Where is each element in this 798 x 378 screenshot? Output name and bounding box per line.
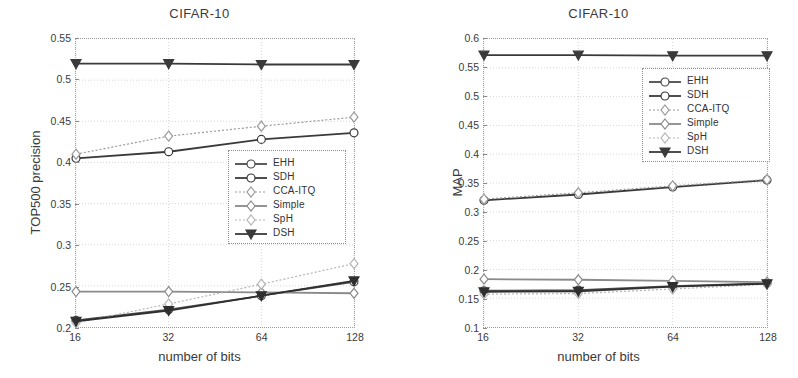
y-tick-label: 0.55 (447, 61, 479, 73)
x-tick-label: 128 (759, 331, 777, 343)
y-tick-mark (483, 270, 487, 271)
legend-item-dsh[interactable]: DSH (648, 143, 763, 157)
legend-label: EHH (273, 157, 295, 168)
y-tick-label: 0.25 (39, 281, 71, 293)
y-tick-mark (483, 241, 487, 242)
x-axis-label-right: number of bits (399, 349, 798, 364)
y-tick-label: 0.1 (447, 322, 479, 334)
legend-item-sph[interactable]: SpH (234, 211, 339, 225)
x-axis-label-left: number of bits (0, 349, 399, 364)
y-tick-mark (75, 121, 79, 122)
y-tick-mark (483, 154, 487, 155)
x-tick-label: 16 (69, 331, 81, 343)
x-tick-label: 64 (667, 331, 679, 343)
legend-left: EHHSDHCCA-ITQSimpleSpHDSH (228, 150, 346, 244)
y-tick-mark (75, 79, 79, 80)
legend-label: CCA-ITQ (273, 185, 316, 196)
legend-item-cca-itq[interactable]: CCA-ITQ (234, 183, 339, 197)
legend-label: CCA-ITQ (687, 103, 730, 114)
chart-panel-right: CIFAR-10 0.10.150.20.250.30.350.40.450.5… (399, 0, 798, 378)
legend-sample-dsh-icon (648, 144, 682, 156)
y-tick-label: 0.25 (447, 235, 479, 247)
y-tick-mark (483, 38, 487, 39)
legend-label: SDH (273, 171, 295, 182)
legend-label: DSH (273, 227, 295, 238)
legend-item-ehh[interactable]: EHH (234, 155, 339, 169)
legend-sample-sdh-icon (234, 170, 268, 182)
legend-item-simple[interactable]: Simple (234, 197, 339, 211)
y-tick-label: 0.4 (39, 156, 71, 168)
y-tick-mark (75, 38, 79, 39)
legend-item-dsh[interactable]: DSH (234, 225, 339, 239)
y-tick-label: 0.6 (447, 32, 479, 44)
y-axis-label-right: MAP (450, 143, 465, 223)
y-tick-mark (483, 212, 487, 213)
legend-label: Simple (687, 117, 719, 128)
figure-two-panel-line-charts: CIFAR-10 0.20.250.30.350.40.450.50.55 16… (0, 0, 798, 378)
legend-label: EHH (687, 75, 709, 86)
y-axis-label-left: TOP500 precision (28, 103, 43, 263)
legend-sample-sdh-icon (648, 88, 682, 100)
y-tick-mark (75, 287, 79, 288)
legend-item-simple[interactable]: Simple (648, 115, 763, 129)
y-tick-mark (483, 183, 487, 184)
chart-panel-left: CIFAR-10 0.20.250.30.350.40.450.50.55 16… (0, 0, 399, 378)
legend-label: DSH (687, 145, 709, 156)
legend-label: SpH (273, 213, 293, 224)
legend-sample-dsh-icon (234, 226, 268, 238)
y-tick-label: 0.5 (447, 90, 479, 102)
legend-sample-cca-itq-icon (234, 184, 268, 196)
chart-title-left: CIFAR-10 (0, 6, 399, 21)
x-tick-label: 16 (477, 331, 489, 343)
y-tick-label: 0.45 (447, 119, 479, 131)
x-tick-label: 32 (162, 331, 174, 343)
x-tick-label: 64 (256, 331, 268, 343)
legend-label: Simple (273, 199, 305, 210)
legend-sample-ehh-icon (234, 156, 268, 168)
legend-sample-simple-icon (648, 116, 682, 128)
y-tick-mark (483, 299, 487, 300)
y-tick-mark (75, 245, 79, 246)
x-tick-label: 32 (572, 331, 584, 343)
legend-sample-sph-icon (648, 130, 682, 142)
legend-sample-simple-icon (234, 198, 268, 210)
y-tick-mark (75, 162, 79, 163)
legend-right: EHHSDHCCA-ITQSimpleSpHDSH (642, 68, 770, 162)
y-tick-label: 0.2 (447, 264, 479, 276)
y-tick-mark (75, 204, 79, 205)
y-tick-mark (75, 328, 79, 329)
y-tick-label: 0.2 (39, 322, 71, 334)
legend-sample-ehh-icon (648, 74, 682, 86)
chart-title-right: CIFAR-10 (399, 6, 798, 21)
legend-item-cca-itq[interactable]: CCA-ITQ (648, 101, 763, 115)
y-tick-label: 0.55 (39, 32, 71, 44)
y-tick-mark (483, 125, 487, 126)
legend-label: SDH (687, 89, 709, 100)
y-tick-mark (483, 67, 487, 68)
y-tick-mark (483, 96, 487, 97)
y-tick-label: 0.5 (39, 73, 71, 85)
y-tick-label: 0.45 (39, 115, 71, 127)
legend-item-ehh[interactable]: EHH (648, 73, 763, 87)
x-tick-label: 128 (346, 331, 364, 343)
legend-sample-cca-itq-icon (648, 102, 682, 114)
legend-item-sdh[interactable]: SDH (648, 87, 763, 101)
legend-sample-sph-icon (234, 212, 268, 224)
y-tick-label: 0.3 (39, 239, 71, 251)
legend-label: SpH (687, 131, 707, 142)
legend-item-sph[interactable]: SpH (648, 129, 763, 143)
y-tick-label: 0.15 (447, 293, 479, 305)
y-tick-label: 0.35 (39, 198, 71, 210)
legend-item-sdh[interactable]: SDH (234, 169, 339, 183)
y-tick-mark (483, 328, 487, 329)
